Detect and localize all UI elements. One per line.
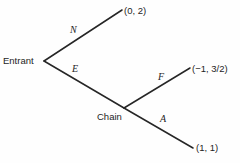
action-label-n: N <box>70 25 77 35</box>
edge-entrant-e <box>44 61 124 108</box>
payoff-label-n: (0, 2) <box>124 6 146 16</box>
edge-chain-f <box>124 68 190 108</box>
edge-entrant-n <box>44 10 122 61</box>
action-label-a: A <box>160 114 166 124</box>
payoff-label-f: (−1, 3/2) <box>192 64 228 74</box>
payoff-label-a: (1, 1) <box>196 143 218 153</box>
action-label-f: F <box>158 72 164 82</box>
edge-chain-a <box>124 108 193 148</box>
node-label-entrant: Entrant <box>3 56 34 66</box>
action-label-e: E <box>72 64 78 74</box>
game-tree-figure: Entrant Chain N E F A (0, 2) (−1, 3/2) (… <box>0 0 240 163</box>
tree-edges <box>0 0 240 163</box>
node-label-chain: Chain <box>97 112 122 122</box>
